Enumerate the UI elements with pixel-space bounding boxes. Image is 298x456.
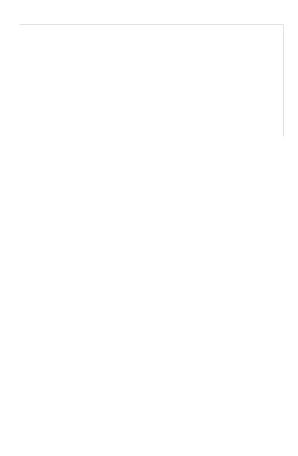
chart-frame xyxy=(20,25,284,136)
panel-frame xyxy=(20,25,284,136)
frame xyxy=(20,25,284,136)
frame-border xyxy=(20,25,284,137)
diagram-container xyxy=(20,25,284,136)
frame-border xyxy=(20,25,284,137)
flowchart-frame xyxy=(20,25,284,136)
frame-rect xyxy=(20,25,284,136)
frame-border-full xyxy=(20,25,284,137)
diagram-frame-outline xyxy=(20,25,284,136)
card-frame xyxy=(20,25,284,136)
figure-frame xyxy=(20,25,284,136)
diagram-border xyxy=(20,25,284,136)
page-frame xyxy=(20,25,284,136)
diagram-frame xyxy=(20,25,284,137)
border-frame xyxy=(20,25,284,136)
outer-frame xyxy=(20,25,284,135)
container-frame xyxy=(20,25,284,136)
frame-outline xyxy=(20,25,284,136)
flowchart xyxy=(0,0,298,456)
main-frame xyxy=(20,25,284,136)
frame-box xyxy=(20,25,284,136)
flowchart-border xyxy=(20,25,284,136)
bounding-frame xyxy=(20,25,284,136)
